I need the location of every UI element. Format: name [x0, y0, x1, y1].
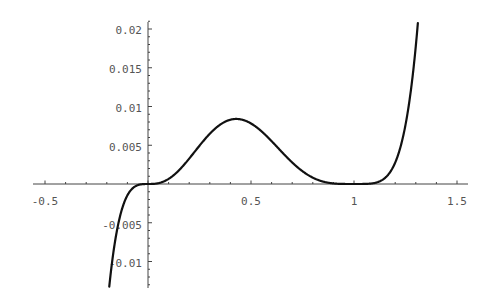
function-curve — [109, 23, 418, 286]
y-tick-label: 0.015 — [109, 63, 142, 76]
x-tick-label: 0.5 — [241, 195, 261, 208]
x-tick-label: 1 — [351, 195, 358, 208]
y-tick-label: -0.01 — [109, 257, 142, 270]
plot-area: -0.5 0.5 1 1.5 0.02 0.015 0.01 0.005 -0.… — [0, 0, 496, 295]
y-tick-label: 0.005 — [109, 141, 142, 154]
y-tick-label: 0.01 — [116, 102, 143, 115]
x-tick-labels: -0.5 0.5 1 1.5 — [32, 195, 467, 208]
x-tick-label: 1.5 — [447, 195, 467, 208]
x-tick-label: -0.5 — [32, 195, 59, 208]
y-tick-label: 0.02 — [116, 24, 143, 37]
y-axis — [148, 21, 152, 288]
y-tick-label: -0.005 — [102, 219, 142, 232]
x-axis — [33, 181, 468, 185]
y-tick-labels: 0.02 0.015 0.01 0.005 -0.005 -0.01 — [102, 24, 142, 270]
